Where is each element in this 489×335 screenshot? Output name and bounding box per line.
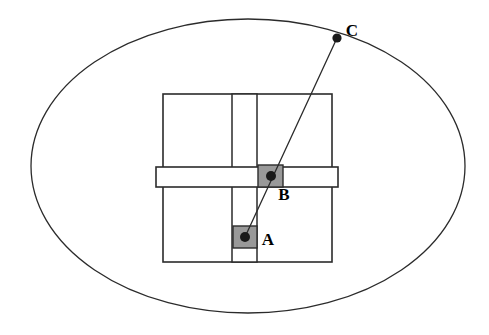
point-a-dot — [240, 232, 250, 242]
figure-canvas: A B C — [0, 0, 489, 335]
diagram-svg: A B C — [0, 0, 489, 335]
cross-intersection-patch — [233, 168, 256, 186]
label-c: C — [346, 21, 358, 40]
point-b-dot — [266, 171, 276, 181]
point-c-dot — [332, 33, 341, 42]
label-b: B — [278, 185, 289, 204]
label-a: A — [262, 230, 275, 249]
